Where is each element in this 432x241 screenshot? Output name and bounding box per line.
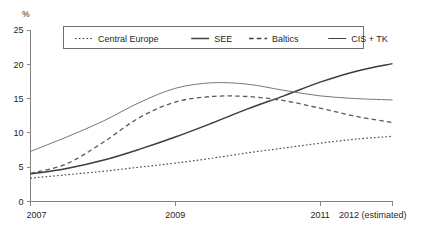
chart-container: % 0510152025 2007200920112012 (estimated… xyxy=(0,0,432,241)
series-line-central-europe xyxy=(31,136,393,178)
series-line-baltics xyxy=(31,96,393,173)
y-axis-ticks: 0510152025 xyxy=(13,25,30,207)
x-tick-label: 2009 xyxy=(165,210,185,220)
legend-label-central-europe: Central Europe xyxy=(98,34,159,44)
y-tick-label: 0 xyxy=(18,197,23,207)
x-axis-ticks: 2007200920112012 (estimated) xyxy=(27,202,407,220)
x-tick-label: 2007 xyxy=(27,210,47,220)
y-tick-label: 20 xyxy=(13,60,23,70)
legend-label-cis-tk: CIS + TK xyxy=(351,34,388,44)
y-tick-label: 15 xyxy=(13,94,23,104)
legend-label-baltics: Baltics xyxy=(272,34,299,44)
series-line-see xyxy=(31,64,393,174)
y-axis-unit-label: % xyxy=(22,9,30,19)
line-chart: % 0510152025 2007200920112012 (estimated… xyxy=(0,0,432,241)
series-lines xyxy=(31,64,393,179)
series-line-cis-tk xyxy=(31,83,393,152)
legend-label-see: SEE xyxy=(214,34,232,44)
y-tick-label: 10 xyxy=(13,128,23,138)
x-tick-label: 2012 (estimated) xyxy=(339,210,407,220)
x-tick-label: 2011 xyxy=(310,210,329,220)
y-tick-label: 25 xyxy=(13,25,23,35)
y-tick-label: 5 xyxy=(18,162,23,172)
